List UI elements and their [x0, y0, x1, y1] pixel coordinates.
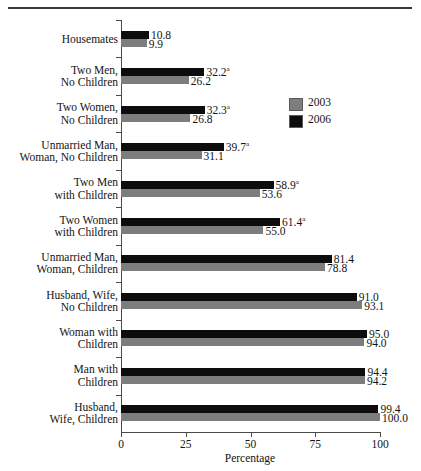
bar-2006 — [121, 255, 332, 263]
bar-2003 — [121, 301, 362, 309]
bar-2003 — [121, 114, 190, 122]
y-axis-tick — [116, 245, 121, 246]
x-axis-tick — [315, 432, 316, 437]
category-label: Man with Children — [0, 363, 118, 388]
bar-2003 — [121, 76, 189, 84]
y-axis-tick — [116, 20, 121, 21]
legend-swatch-2006 — [289, 115, 303, 128]
bar-2006 — [121, 330, 367, 338]
bar-2006 — [121, 218, 280, 226]
y-axis-tick — [116, 320, 121, 321]
bar-2003 — [121, 376, 365, 384]
bar-2006 — [121, 293, 357, 301]
bar-2003 — [121, 226, 263, 234]
legend-label-2003: 2003 — [308, 96, 331, 108]
category-label: Unmarried Man, Woman, Children — [0, 251, 118, 276]
x-axis-tick-label: 25 — [180, 438, 192, 451]
bar-2003 — [121, 189, 260, 197]
y-axis-tick — [116, 282, 121, 283]
value-label-2003: 94.0 — [366, 338, 386, 349]
bar-2006 — [121, 405, 378, 413]
category-label: Husband, Wife, Children — [0, 401, 118, 426]
value-label-2003: 26.2 — [191, 76, 211, 87]
bar-2003 — [121, 413, 380, 421]
y-axis-tick — [116, 357, 121, 358]
category-label: Husband, Wife, No Children — [0, 289, 118, 314]
category-label: Unmarried Man, Woman, No Children — [0, 139, 118, 164]
bar-2006 — [121, 31, 149, 39]
figure-container: 2003 2006 Percentage 0255075100Housemate… — [0, 0, 421, 471]
bar-2003 — [121, 151, 202, 159]
category-label: Two Men with Children — [0, 176, 118, 201]
bar-2003 — [121, 263, 325, 271]
value-label-2003: 9.9 — [149, 39, 163, 50]
value-label-2003: 100.0 — [382, 413, 408, 424]
category-label: Two Women with Children — [0, 214, 118, 239]
bar-2006 — [121, 181, 274, 189]
value-label-2003: 93.1 — [364, 301, 384, 312]
x-axis-tick — [380, 432, 381, 437]
value-label-2003: 78.8 — [327, 263, 347, 274]
bar-2003 — [121, 39, 147, 47]
y-axis-tick — [116, 57, 121, 58]
y-axis-tick — [116, 170, 121, 171]
legend-swatch-2003 — [289, 98, 303, 111]
x-axis-tick-label: 50 — [245, 438, 257, 451]
x-axis-tick-label: 75 — [310, 438, 322, 451]
bar-2006 — [121, 368, 365, 376]
x-axis-title: Percentage — [225, 452, 275, 464]
x-axis-tick — [251, 432, 252, 437]
category-label: Housemates — [0, 33, 118, 45]
value-label-2003: 26.8 — [192, 114, 212, 125]
bar-2003 — [121, 338, 364, 346]
category-label: Two Women, No Children — [0, 101, 118, 126]
category-label: Two Men, No Children — [0, 64, 118, 89]
x-axis-tick-label: 0 — [118, 438, 124, 451]
x-axis-tick — [121, 432, 122, 437]
y-axis-tick — [116, 395, 121, 396]
value-label-2003: 94.2 — [367, 376, 387, 387]
category-label: Woman with Children — [0, 326, 118, 351]
value-label-2006: 39.7a — [226, 142, 249, 153]
value-label-2003: 31.1 — [204, 151, 224, 162]
y-axis-tick — [116, 207, 121, 208]
y-axis-tick — [116, 95, 121, 96]
legend-label-2006: 2006 — [308, 113, 331, 125]
x-axis-tick-label: 100 — [371, 438, 388, 451]
y-axis-tick — [116, 132, 121, 133]
value-label-2003: 55.0 — [265, 226, 285, 237]
x-axis-tick — [186, 432, 187, 437]
value-label-2003: 53.6 — [262, 189, 282, 200]
